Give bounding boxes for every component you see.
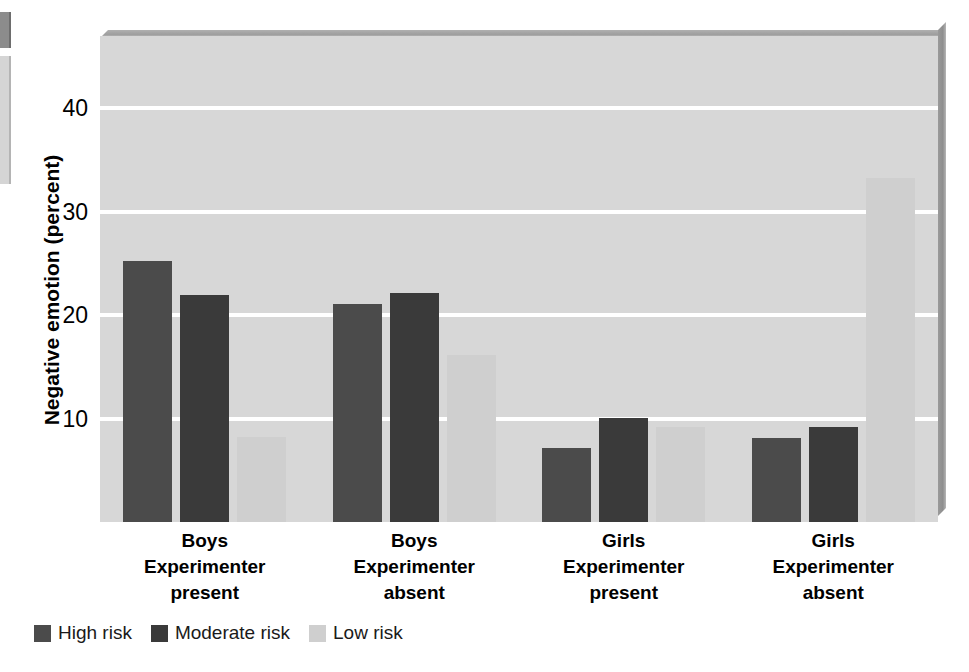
x-label-group-1: BoysExperimenterpresent — [100, 528, 310, 606]
x-label-group-2-line-3: absent — [310, 580, 520, 606]
gridline-40 — [100, 106, 938, 110]
plot-area — [100, 36, 938, 522]
x-label-group-3-line-3: present — [519, 580, 729, 606]
x-label-group-4-line-2: Experimenter — [729, 554, 939, 580]
bar-low-risk-group-4 — [866, 178, 915, 522]
bar-moderate-risk-group-4 — [809, 427, 858, 522]
y-axis-tick-labels: 40302010 — [34, 0, 88, 672]
bar-high-risk-group-4 — [752, 438, 801, 522]
x-label-group-3-line-2: Experimenter — [519, 554, 729, 580]
x-label-group-2-line-2: Experimenter — [310, 554, 520, 580]
x-label-group-4-line-3: absent — [729, 580, 939, 606]
bar-high-risk-group-1 — [123, 261, 172, 522]
x-label-group-1-line-1: Boys — [100, 528, 310, 554]
y-axis-tick-40: 40 — [34, 95, 88, 122]
legend-swatch-icon-2 — [309, 625, 326, 642]
x-label-group-1-line-2: Experimenter — [100, 554, 310, 580]
bar-high-risk-group-2 — [333, 304, 382, 522]
bar-moderate-risk-group-2 — [390, 293, 439, 522]
legend: High riskModerate riskLow risk — [34, 622, 403, 644]
plot-area-bevel-right — [938, 22, 946, 516]
bar-low-risk-group-1 — [237, 437, 286, 522]
x-label-group-3-line-1: Girls — [519, 528, 729, 554]
y-axis-tick-30: 30 — [34, 198, 88, 225]
bar-chart: Negative emotion (percent) 40302010 Boys… — [0, 0, 969, 672]
legend-label-1: Moderate risk — [175, 622, 290, 644]
y-axis-tick-20: 20 — [34, 302, 88, 329]
bar-low-risk-group-3 — [656, 427, 705, 522]
bar-moderate-risk-group-3 — [599, 418, 648, 522]
legend-label-0: High risk — [58, 622, 132, 644]
legend-item-moderate-risk: Moderate risk — [151, 622, 290, 644]
bar-low-risk-group-2 — [447, 355, 496, 523]
legend-item-high-risk: High risk — [34, 622, 132, 644]
bar-high-risk-group-3 — [542, 448, 591, 522]
x-label-group-2-line-1: Boys — [310, 528, 520, 554]
x-label-group-3: GirlsExperimenterpresent — [519, 528, 729, 606]
bar-moderate-risk-group-1 — [180, 295, 229, 522]
legend-swatch-icon-1 — [151, 625, 168, 642]
legend-item-low-risk: Low risk — [309, 622, 403, 644]
x-label-group-4-line-1: Girls — [729, 528, 939, 554]
y-axis-tick-10: 10 — [34, 405, 88, 432]
legend-label-2: Low risk — [333, 622, 403, 644]
x-label-group-1-line-3: present — [100, 580, 310, 606]
gridline-30 — [100, 210, 938, 214]
legend-swatch-icon-0 — [34, 625, 51, 642]
x-label-group-4: GirlsExperimenterabsent — [729, 528, 939, 606]
x-label-group-2: BoysExperimenterabsent — [310, 528, 520, 606]
